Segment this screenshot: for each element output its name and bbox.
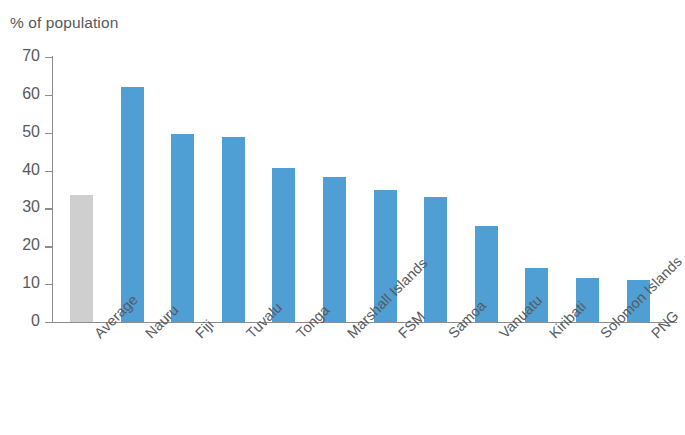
- x-axis-category-labels: AverageNauruFijiTuvaluTongaMarshall Isla…: [0, 322, 682, 435]
- bar-tonga: [272, 168, 295, 322]
- bar-average: [70, 195, 93, 322]
- bar-fiji: [171, 134, 194, 322]
- bars-layer: [0, 0, 682, 322]
- bar-samoa: [424, 197, 447, 322]
- bar-nauru: [121, 87, 144, 322]
- bar-tuvalu: [222, 137, 245, 323]
- bar-marshall-islands: [323, 177, 346, 322]
